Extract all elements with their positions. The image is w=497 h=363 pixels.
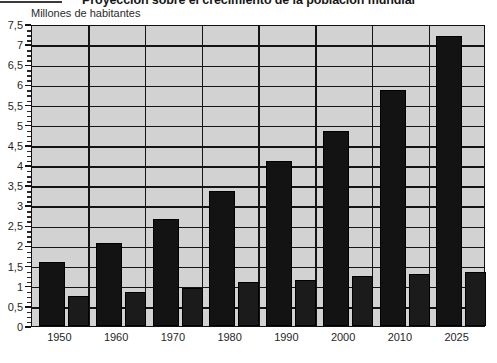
y-tick-minor	[27, 101, 31, 103]
bar-1980-serie-2	[238, 282, 259, 326]
y-tick-minor	[27, 30, 31, 32]
y-tick-label: 6,5	[8, 59, 23, 71]
y-tick-minor	[27, 272, 31, 274]
x-tick-label-2010: 2010	[388, 331, 412, 343]
y-tick-label: 7	[17, 39, 23, 51]
y-tick-label: 7,5	[8, 19, 23, 31]
y-axis: 00,511,522,533,544,555,566,577,5	[0, 25, 31, 327]
y-tick-minor	[27, 322, 31, 324]
bar-1950-serie-2	[68, 296, 89, 326]
y-tick-minor	[27, 211, 31, 213]
bar-1990-serie-2	[295, 280, 316, 326]
y-tick	[25, 125, 31, 127]
gridline-vertical	[88, 26, 90, 326]
y-tick	[25, 65, 31, 67]
y-tick-minor	[27, 60, 31, 62]
bar-1960-serie-1	[96, 243, 122, 326]
bar-2025-serie-1	[436, 36, 462, 326]
y-tick-minor	[27, 95, 31, 97]
x-tick-label-2025: 2025	[444, 331, 468, 343]
y-tick-minor	[27, 176, 31, 178]
y-tick-minor	[27, 292, 31, 294]
y-tick-label: 4,5	[8, 140, 23, 152]
y-tick-minor	[27, 40, 31, 42]
y-tick-minor	[27, 312, 31, 314]
y-tick-label: 1	[17, 281, 23, 293]
y-tick-minor	[27, 282, 31, 284]
y-tick	[25, 266, 31, 268]
y-tick-minor	[27, 55, 31, 57]
bar-2000-serie-2	[352, 276, 373, 326]
y-tick-minor	[27, 151, 31, 153]
y-tick-minor	[27, 161, 31, 163]
gridline-vertical	[202, 26, 204, 326]
x-tick-label-2000: 2000	[331, 331, 355, 343]
y-tick-minor	[27, 171, 31, 173]
y-tick-minor	[27, 75, 31, 77]
y-tick-label: 5,5	[8, 100, 23, 112]
y-tick	[25, 286, 31, 288]
y-tick	[25, 165, 31, 167]
y-tick-minor	[27, 156, 31, 158]
y-tick	[25, 306, 31, 308]
x-tick-label-1990: 1990	[274, 331, 298, 343]
y-tick	[25, 145, 31, 147]
y-tick	[25, 246, 31, 248]
bar-1990-serie-1	[266, 161, 292, 326]
y-tick-minor	[27, 80, 31, 82]
y-tick-minor	[27, 50, 31, 52]
y-tick-label: 4	[17, 160, 23, 172]
y-tick-minor	[27, 231, 31, 233]
y-tick-minor	[27, 317, 31, 319]
y-tick-minor	[27, 70, 31, 72]
y-tick-minor	[27, 302, 31, 304]
y-tick-minor	[27, 196, 31, 198]
bar-1970-serie-2	[182, 288, 203, 326]
y-tick-label: 3,5	[8, 180, 23, 192]
y-tick-label: 5	[17, 120, 23, 132]
bar-1970-serie-1	[153, 219, 179, 326]
y-tick-minor	[27, 35, 31, 37]
y-tick-minor	[27, 116, 31, 118]
y-tick	[25, 205, 31, 207]
y-tick-minor	[27, 277, 31, 279]
y-tick-minor	[27, 136, 31, 138]
bar-2010-serie-2	[409, 274, 430, 326]
y-tick-minor	[27, 257, 31, 259]
bar-2025-serie-2	[465, 272, 486, 326]
y-tick	[25, 85, 31, 87]
y-tick-label: 0,5	[8, 301, 23, 313]
y-tick-minor	[27, 221, 31, 223]
x-tick-label-1950: 1950	[47, 331, 71, 343]
plot-area	[31, 25, 485, 327]
y-tick-label: 0	[17, 321, 23, 333]
gridline-vertical	[145, 26, 147, 326]
y-tick-minor	[27, 201, 31, 203]
y-tick-minor	[27, 181, 31, 183]
x-tick-label-1960: 1960	[104, 331, 128, 343]
y-axis-caption: Millones de habitantes	[31, 7, 140, 19]
y-tick-minor	[27, 131, 31, 133]
y-tick	[25, 326, 31, 328]
y-tick	[25, 24, 31, 26]
y-tick	[25, 185, 31, 187]
y-tick	[25, 105, 31, 107]
y-tick-minor	[27, 216, 31, 218]
y-tick-minor	[27, 252, 31, 254]
y-tick-minor	[27, 111, 31, 113]
y-tick-minor	[27, 297, 31, 299]
y-tick-label: 6	[17, 79, 23, 91]
y-tick-label: 3	[17, 200, 23, 212]
y-tick-label: 1,5	[8, 261, 23, 273]
y-tick-label: 2	[17, 240, 23, 252]
y-tick-minor	[27, 191, 31, 193]
y-tick-minor	[27, 236, 31, 238]
y-tick	[25, 44, 31, 46]
bar-1980-serie-1	[209, 191, 235, 326]
y-tick-minor	[27, 241, 31, 243]
chart-title: Proyección sobre el crecimiento de la po…	[0, 0, 497, 7]
x-tick-label-1980: 1980	[217, 331, 241, 343]
y-tick-minor	[27, 90, 31, 92]
y-tick-minor	[27, 121, 31, 123]
y-tick	[25, 226, 31, 228]
